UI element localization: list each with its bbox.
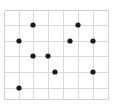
data-point [16, 85, 21, 90]
scatter-plot [0, 0, 113, 108]
data-point [30, 53, 35, 58]
scatter-plot-canvas [0, 0, 113, 108]
data-point [30, 22, 35, 27]
screenshot-root [0, 0, 113, 108]
data-point [90, 38, 95, 43]
data-point [52, 69, 57, 74]
data-point [16, 38, 21, 43]
data-point [75, 22, 80, 27]
data-point [45, 53, 50, 58]
data-point [90, 69, 95, 74]
data-point [67, 38, 72, 43]
